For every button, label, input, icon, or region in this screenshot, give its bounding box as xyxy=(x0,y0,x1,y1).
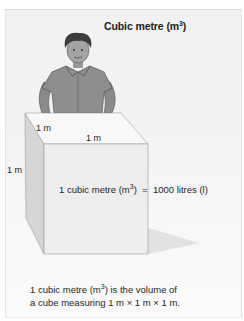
cube-front-face xyxy=(44,144,148,254)
width-label: 1 m xyxy=(86,133,101,143)
cube-shadow xyxy=(148,228,200,254)
boy-figure xyxy=(39,33,115,113)
height-label: 1 m xyxy=(7,165,22,175)
cube-illustration xyxy=(0,0,244,321)
caption-text: 1 cubic metre (m3) is the volume of a cu… xyxy=(30,283,180,309)
equation-text: 1 cubic metre (m3) = 1000 litres (l) xyxy=(59,184,208,195)
depth-label: 1 m xyxy=(36,123,51,133)
